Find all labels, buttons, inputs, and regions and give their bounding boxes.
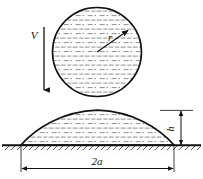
velocity-label: V bbox=[31, 29, 39, 41]
physics-diagram-figure: r V h 2a bbox=[0, 0, 203, 179]
puddle-dome bbox=[21, 110, 174, 145]
ground-hatch-band bbox=[2, 146, 201, 154]
width-label: 2a bbox=[92, 155, 104, 167]
height-label: h bbox=[165, 127, 176, 132]
diagram-canvas: r V h 2a bbox=[0, 0, 203, 179]
